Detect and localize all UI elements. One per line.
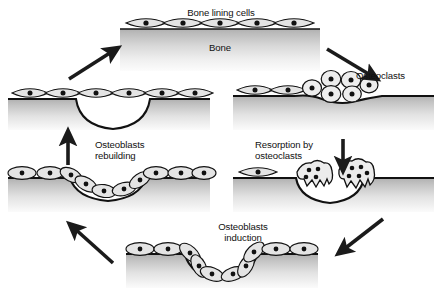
arrow-resorption-to-induction: [343, 219, 383, 250]
panel-rebuilding: [8, 164, 216, 212]
arrow-restored-to-quiescent: [69, 51, 113, 79]
bone-lining-cell-row: [12, 89, 213, 98]
panel-resorption: [233, 159, 434, 212]
bone-lining-cell-row: [237, 86, 306, 95]
panel-induction: [126, 238, 318, 288]
label-osteoblasts-rebuilding: Osteoblasts rebuilding: [95, 140, 215, 161]
panel-restored: [8, 89, 213, 130]
label-osteoblasts-induction: Osteoblasts induction: [178, 222, 308, 243]
bone-block: [126, 254, 318, 288]
bone-block: [8, 99, 210, 130]
label-bone: Bone: [120, 43, 320, 54]
label-resorption-by-osteoclasts: Resorption by osteoclasts: [255, 140, 375, 161]
multinucleated-osteoclast-group: [297, 159, 375, 188]
label-osteoclasts: Osteoclasts: [356, 71, 442, 82]
arrow-induction-to-rebuilding: [74, 228, 113, 263]
osteoclast-ruffled-border: [297, 161, 333, 188]
label-bone-lining-cells: Bone lining cells: [0, 8, 442, 19]
bone-remodeling-figure: Bone lining cells Bone Osteoclasts Resor…: [0, 0, 442, 294]
nucleus: [256, 170, 261, 175]
bone-block: [233, 178, 434, 212]
